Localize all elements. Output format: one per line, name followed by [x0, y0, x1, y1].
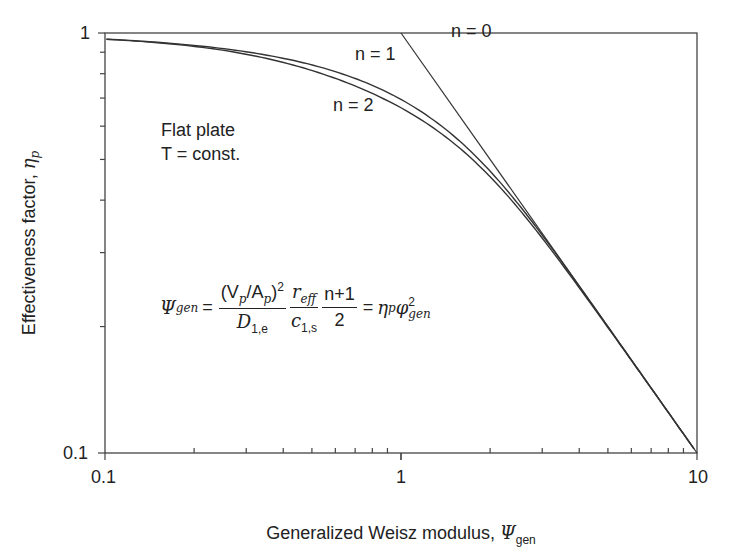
- formula-equals: =: [202, 297, 213, 318]
- eta-symbol: η: [18, 159, 39, 170]
- formula-psi: Ψ: [160, 297, 176, 318]
- weisz-modulus-formula: Ψgen = (Vp/Ap)2 D1,e reff c1,s n+1 2 = η…: [160, 280, 431, 335]
- f1-den: D: [237, 311, 251, 332]
- f2-den-sub: 1,s: [301, 321, 317, 335]
- formula-equals-2: =: [363, 297, 374, 318]
- label-n2: n = 2: [333, 96, 374, 114]
- y-tick-label-1: 1: [80, 24, 90, 42]
- formula-eta-sub: p: [388, 301, 396, 315]
- eta-subscript: p: [28, 151, 42, 159]
- f2-den: c: [291, 310, 301, 331]
- x-tick-label-1: 1: [396, 468, 406, 486]
- x-tick-label-0.1: 0.1: [91, 468, 116, 486]
- label-n1: n = 1: [355, 45, 396, 63]
- formula-eta: η: [377, 297, 388, 318]
- y-tick-label-0.1: 0.1: [63, 444, 88, 462]
- fraction-geometry: (Vp/Ap)2 D1,e: [219, 280, 286, 335]
- label-t-const: T = const.: [161, 145, 240, 163]
- y-axis-label: Effectiveness factor, ηp: [18, 151, 43, 335]
- fraction-rate: reff c1,s: [290, 281, 318, 335]
- curve-n1: [107, 39, 695, 449]
- formula-phi-scripts: 2gen: [408, 296, 431, 320]
- y-axis-label-text: Effectiveness factor,: [19, 169, 39, 335]
- formula-psi-sub: gen: [176, 301, 199, 315]
- label-flat-plate: Flat plate: [161, 121, 235, 139]
- x-tick-label-10: 10: [688, 468, 708, 486]
- f1-num-b: /A: [247, 282, 264, 302]
- psi-subscript: gen: [516, 533, 536, 547]
- formula-phi-sup: 2: [408, 296, 431, 308]
- f1-num-sup: 2: [277, 280, 284, 294]
- fraction-order-den: 2: [334, 308, 344, 331]
- fraction-order-num: n+1: [322, 284, 357, 308]
- psi-symbol: Ψ: [500, 522, 516, 543]
- curve-n0: [401, 33, 697, 453]
- f1-num-sub1: p: [239, 292, 247, 306]
- plot-frame: [105, 33, 697, 453]
- x-axis-label-text: Generalized Weisz modulus,: [266, 523, 500, 543]
- fraction-rate-den: c1,s: [291, 308, 317, 335]
- formula-phi: φ: [396, 297, 409, 318]
- formula-phi-sub: gen: [408, 308, 431, 320]
- f1-num-a: (V: [221, 282, 239, 302]
- f2-num: r: [292, 281, 301, 302]
- curves: [107, 33, 698, 453]
- fraction-rate-num: reff: [290, 281, 318, 309]
- fraction-order: n+1 2: [322, 284, 357, 331]
- x-axis-label: Generalized Weisz modulus, Ψgen: [266, 522, 536, 547]
- fraction-geometry-den: D1,e: [237, 309, 268, 336]
- f2-num-sub: eff: [301, 291, 317, 305]
- f1-den-sub: 1,e: [251, 321, 268, 335]
- label-n0: n = 0: [451, 22, 492, 40]
- fraction-geometry-num: (Vp/Ap)2: [219, 280, 286, 309]
- curve-n2: [107, 39, 695, 449]
